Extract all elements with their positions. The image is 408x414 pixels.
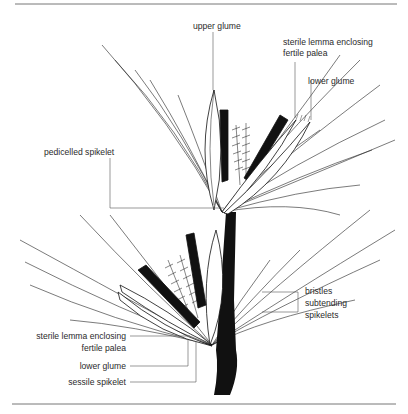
label-sterile-lemma-top: sterile lemma enclosing — [283, 37, 373, 48]
spikelet-diagram: upper glume sterile lemma enclosing fert… — [0, 0, 408, 414]
label-lower-glume-bottom: lower glume — [0, 361, 126, 372]
label-fertile-palea-top: fertile palea — [283, 48, 327, 59]
label-lower-glume-top: lower glume — [308, 76, 354, 87]
label-pedicelled-spikelet: pedicelled spikelet — [44, 147, 114, 158]
label-bristles: bristles — [305, 286, 332, 297]
label-spikelets: spikelets — [305, 310, 338, 321]
label-fertile-palea-bottom: fertile palea — [0, 343, 126, 354]
label-sterile-lemma-bottom: sterile lemma enclosing — [0, 331, 126, 342]
label-upper-glume: upper glume — [193, 21, 241, 32]
label-sessile-spikelet: sessile spikelet — [0, 377, 126, 388]
label-subtending: subtending — [305, 298, 347, 309]
